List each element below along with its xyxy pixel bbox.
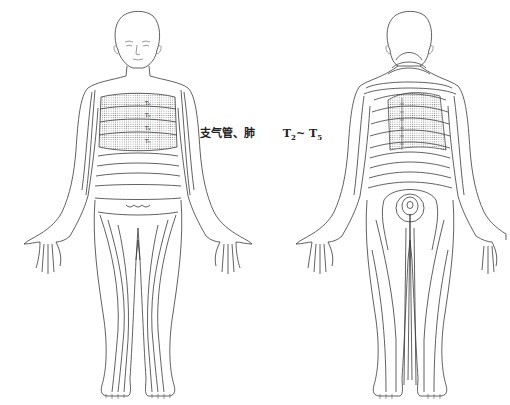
label-t2: T₂ <box>145 100 150 106</box>
front-right-hand <box>206 234 252 274</box>
front-chest-highlight <box>99 93 177 151</box>
range-separator: ~ <box>296 127 309 140</box>
range-end: T <box>309 127 317 140</box>
dermatome-figure: T₂ T₃ T₄ T₅ <box>0 0 510 405</box>
front-left-hand <box>24 234 70 274</box>
label-t3: T₃ <box>145 112 150 118</box>
label-t4: T₄ <box>145 125 150 131</box>
label-t5: T₅ <box>145 138 150 144</box>
range-end-sub: 5 <box>317 133 322 142</box>
back-upper-highlight <box>388 93 446 150</box>
back-head <box>387 11 432 66</box>
range-start: T <box>283 127 291 140</box>
segment-range: T2~ T5 <box>283 127 322 140</box>
organ-dermatome-caption: 支气管、肺 T2~ T5 <box>200 124 322 142</box>
back-body-figure <box>296 11 506 399</box>
front-head <box>115 11 160 68</box>
front-body-figure: T₂ T₃ T₄ T₅ <box>24 11 252 399</box>
organ-name: 支气管、肺 <box>200 127 255 140</box>
